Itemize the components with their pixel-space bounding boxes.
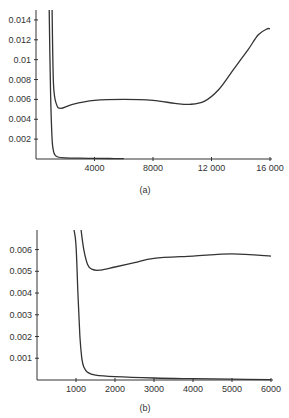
line-curve-lower [74, 230, 271, 380]
x-tick-label: 5000 [222, 384, 242, 394]
x-tick-label: 1000 [66, 384, 86, 394]
chart-a: 0.0020.0040.0060.0080.010.0120.014400080… [8, 10, 283, 195]
x-tick-label: 4000 [84, 163, 104, 173]
line-curve-lower [49, 10, 124, 159]
x-tick-label: 4000 [183, 384, 203, 394]
x-tick-label: 2000 [105, 384, 125, 394]
line-curve-upper [81, 230, 271, 270]
figure-caption: (b) [140, 403, 151, 413]
y-tick-label: 0.01 [13, 55, 31, 65]
x-tick-label: 8000 [143, 163, 163, 173]
y-tick-label: 0.003 [9, 310, 32, 320]
y-tick-label: 0.001 [9, 353, 32, 363]
chart-b: 0.0010.0020.0030.0040.0050.0061000200030… [9, 230, 281, 413]
y-tick-label: 0.002 [9, 332, 32, 342]
y-tick-label: 0.008 [8, 75, 31, 85]
x-tick-label: 16 000 [256, 163, 284, 173]
line-curve-upper [52, 10, 270, 108]
y-tick-label: 0.004 [8, 114, 31, 124]
y-tick-label: 0.004 [9, 288, 32, 298]
y-tick-label: 0.012 [8, 35, 31, 45]
y-tick-label: 0.014 [8, 15, 31, 25]
figure: 0.0020.0040.0060.0080.010.0120.014400080… [0, 0, 289, 418]
x-tick-label: 12 000 [198, 163, 226, 173]
x-tick-label: 3000 [144, 384, 164, 394]
y-tick-label: 0.006 [9, 245, 32, 255]
figure-caption: (a) [140, 185, 151, 195]
y-tick-label: 0.006 [8, 94, 31, 104]
y-tick-label: 0.002 [8, 134, 31, 144]
y-tick-label: 0.005 [9, 266, 32, 276]
x-tick-label: 6000 [261, 384, 281, 394]
